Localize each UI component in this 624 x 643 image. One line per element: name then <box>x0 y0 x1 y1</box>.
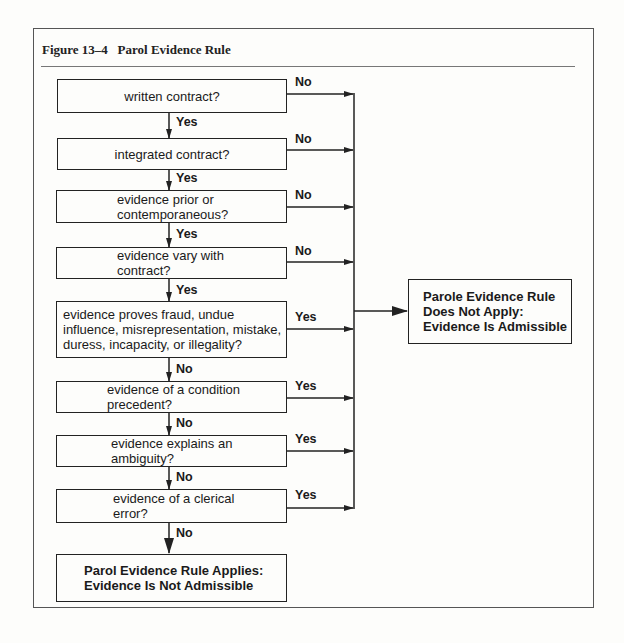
label-exit-7: Yes <box>295 432 317 446</box>
label-exit-1: No <box>295 75 312 89</box>
label-exit-2: No <box>295 132 312 146</box>
label-continue-4: Yes <box>176 283 198 297</box>
question-fraud-etc: evidence proves fraud, undue influence, … <box>56 301 287 358</box>
outcome-not-admissible: Parol Evidence Rule Applies: Evidence Is… <box>56 554 287 602</box>
outcome-admissible: Parole Evidence Rule Does Not Apply: Evi… <box>408 279 572 344</box>
label-exit-3: No <box>295 188 312 202</box>
question-vary-with-contract: evidence vary with contract? <box>56 247 287 279</box>
question-written-contract: written contract? <box>57 79 287 113</box>
question-clerical-error: evidence of a clerical error? <box>56 489 287 523</box>
label-exit-4: No <box>295 244 312 258</box>
label-continue-8: No <box>176 526 193 540</box>
label-continue-1: Yes <box>176 115 198 129</box>
question-prior-contemporaneous: evidence prior or contemporaneous? <box>56 190 287 223</box>
label-exit-5: Yes <box>295 310 317 324</box>
label-continue-7: No <box>176 470 193 484</box>
question-condition-precedent: evidence of a condition precedent? <box>56 381 287 413</box>
label-continue-2: Yes <box>176 171 198 185</box>
label-continue-5: No <box>176 362 193 376</box>
label-exit-6: Yes <box>295 379 317 393</box>
label-exit-8: Yes <box>295 488 317 502</box>
label-continue-6: No <box>176 416 193 430</box>
label-continue-3: Yes <box>176 227 198 241</box>
question-ambiguity: evidence explains an ambiguity? <box>56 435 287 467</box>
question-integrated-contract: integrated contract? <box>57 138 287 170</box>
